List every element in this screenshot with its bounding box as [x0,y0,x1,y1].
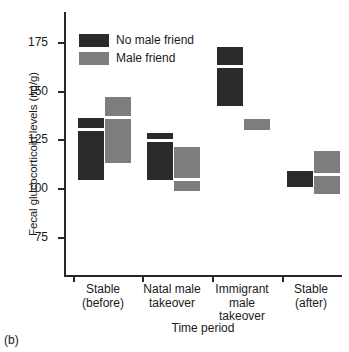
mean-line-no-male-friend-natal-takeover [147,139,173,142]
x-axis-title: Time period [64,321,342,335]
y-tick-125 [58,139,66,141]
x-tick-3 [282,275,284,282]
y-tick-100 [58,188,66,190]
x-category-label-immigrant-takeover-line-1: male [203,297,281,311]
x-category-label-natal-takeover-line-0: Natal male [133,283,211,297]
legend-label-no-male-friend: No male friend [116,33,194,47]
mean-line-male-friend-stable-after [314,173,340,176]
y-tick-label-150: 150 [8,84,48,98]
mean-line-no-male-friend-stable-after [287,187,313,190]
mean-line-male-friend-stable-before [105,116,131,119]
y-tick-label-100: 100 [8,181,48,195]
x-category-label-stable-before-line-0: Stable [64,283,142,297]
mean-line-no-male-friend-stable-before [78,128,104,131]
bar-no-male-friend-immigrant-takeover [217,47,243,106]
x-category-label-stable-after-line-0: Stable [272,283,349,297]
bar-no-male-friend-stable-before [78,118,104,180]
y-tick-150 [58,91,66,93]
legend-swatch-male-friend [79,52,109,65]
legend-swatch-no-male-friend [79,34,109,47]
x-category-label-stable-after: Stable (after) [272,283,349,310]
panel-label: (b) [4,333,19,347]
x-category-label-natal-takeover-line-1: takeover [133,297,211,311]
legend-label-male-friend: Male friend [116,51,175,65]
x-category-label-immigrant-takeover: Immigrant male takeover [203,283,281,324]
x-category-label-stable-after-line-1: (after) [272,297,349,311]
mean-line-male-friend-natal-takeover [174,178,200,181]
y-tick-label-175: 175 [8,35,48,49]
x-tick-2 [212,275,214,282]
legend-item-no-male-friend: No male friend [79,32,194,48]
x-tick-0 [73,275,75,282]
legend: No male friend Male friend [79,32,194,68]
bar-male-friend-stable-before [105,97,131,163]
x-category-label-stable-before-line-1: (before) [64,297,142,311]
y-tick-label-75: 75 [8,230,48,244]
x-tick-1 [142,275,144,282]
x-category-label-natal-takeover: Natal male takeover [133,283,211,310]
legend-item-male-friend: Male friend [79,50,194,66]
bar-male-friend-natal-takeover [174,147,200,192]
y-tick-label-125: 125 [8,132,48,146]
y-tick-75 [58,237,66,239]
mean-line-no-male-friend-immigrant-takeover [217,65,243,68]
bar-male-friend-immigrant-takeover [244,119,270,131]
figure-panel-b: Fecal glucocorticoid levels (ng/g) 175 1… [0,0,349,352]
x-category-label-stable-before: Stable (before) [64,283,142,310]
x-category-label-immigrant-takeover-line-0: Immigrant [203,283,281,297]
x-axis-line [64,275,342,277]
y-tick-175 [58,42,66,44]
